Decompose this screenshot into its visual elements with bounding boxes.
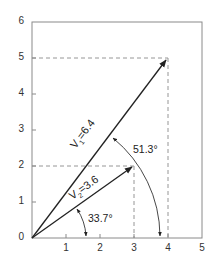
x-tick-label: 4 <box>162 243 174 253</box>
x-tick-label: 2 <box>94 243 106 253</box>
y-tick-label: 5 <box>12 52 24 62</box>
plot-frame <box>32 22 202 238</box>
vector-plot <box>0 0 214 268</box>
y-tick-label: 2 <box>12 160 24 170</box>
angle-arc-v2 <box>77 209 86 236</box>
y-axis-ticks <box>32 58 36 202</box>
y-tick-label: 1 <box>12 196 24 206</box>
x-axis-ticks <box>66 234 168 238</box>
x-tick-label: 1 <box>60 243 72 253</box>
x-tick-label: 3 <box>128 243 140 253</box>
y-tick-label: 6 <box>12 16 24 26</box>
y-tick-label: 4 <box>12 88 24 98</box>
vector-v2 <box>32 167 132 238</box>
angle-label-v1: 51.3° <box>133 144 158 155</box>
x-tick-label: 5 <box>196 243 208 253</box>
angle-label-v2: 33.7° <box>88 213 113 224</box>
y-tick-label: 0 <box>12 232 24 242</box>
y-tick-label: 3 <box>12 124 24 134</box>
